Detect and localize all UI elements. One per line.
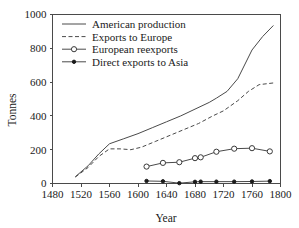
x-tick-label: 1800: [270, 188, 293, 200]
series-marker: [232, 180, 235, 183]
legend-label: Exports to Europe: [92, 31, 172, 43]
x-tick-label: 1520: [70, 188, 93, 200]
line-chart: 02004006008001000 1480152015601600164016…: [0, 0, 299, 228]
y-tick-label: 400: [30, 110, 47, 122]
x-tick-label: 1760: [241, 188, 264, 200]
series-marker: [232, 146, 237, 151]
legend-marker: [72, 60, 75, 63]
legend-item-4: Direct exports to Asia: [62, 56, 188, 68]
x-tick-label: 1680: [184, 188, 207, 200]
series-line-2: [75, 83, 273, 177]
series-marker: [145, 179, 148, 182]
series-marker: [268, 179, 271, 182]
legend-marker: [71, 47, 76, 52]
chart-container: 02004006008001000 1480152015601600164016…: [0, 0, 299, 228]
series-marker: [250, 180, 253, 183]
y-axis-tick-labels: 02004006008001000: [25, 8, 48, 189]
series-marker: [192, 156, 197, 161]
series-marker: [198, 155, 203, 160]
y-tick-label: 600: [30, 76, 47, 88]
series-marker: [178, 181, 181, 184]
series-2: [75, 83, 273, 177]
legend-item-1: American production: [62, 18, 186, 30]
x-tick-label: 1600: [127, 188, 150, 200]
legend-item-2: Exports to Europe: [62, 31, 172, 43]
y-axis-title: Tonnes: [6, 93, 18, 127]
series-3: [144, 146, 272, 170]
x-tick-label: 1480: [42, 188, 65, 200]
series-4: [145, 179, 272, 185]
series-marker: [193, 180, 196, 183]
series-marker: [144, 164, 149, 169]
y-tick-label: 1000: [25, 8, 48, 20]
x-tick-label: 1720: [213, 188, 236, 200]
series-marker: [215, 180, 218, 183]
series-marker: [161, 180, 164, 183]
x-axis-title: Year: [155, 212, 176, 224]
x-axis-tick-labels: 148015201560160016401680172017601800: [42, 188, 293, 200]
y-tick-label: 200: [30, 144, 47, 156]
series-marker: [199, 180, 202, 183]
series-marker: [214, 149, 219, 154]
legend-label: American production: [92, 18, 186, 30]
series-marker: [267, 149, 272, 154]
x-tick-label: 1640: [156, 188, 179, 200]
legend-item-3: European reexports: [62, 43, 178, 55]
legend-label: European reexports: [92, 43, 178, 55]
series-marker: [177, 160, 182, 165]
y-tick-label: 800: [30, 42, 47, 54]
chart-legend: American productionExports to EuropeEuro…: [62, 18, 188, 68]
series-marker: [249, 146, 254, 151]
series-marker: [160, 160, 165, 165]
legend-label: Direct exports to Asia: [92, 56, 188, 68]
x-tick-label: 1560: [99, 188, 122, 200]
